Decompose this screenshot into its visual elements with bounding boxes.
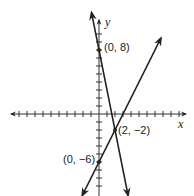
point-marker: [97, 160, 101, 164]
line-1: [91, 12, 128, 195]
plot-lines: [82, 12, 161, 195]
y-axis-label: y: [105, 16, 110, 28]
point-marker: [97, 48, 101, 52]
x-axis-label: x: [178, 118, 183, 130]
coordinate-plane: [0, 0, 194, 196]
line-2: [82, 38, 161, 196]
point-marker: [113, 128, 117, 132]
point-label-0-neg6: (0, −6): [63, 154, 95, 165]
point-label-0-8: (0, 8): [104, 42, 130, 53]
point-label-2-neg2: (2, −2): [118, 125, 150, 136]
